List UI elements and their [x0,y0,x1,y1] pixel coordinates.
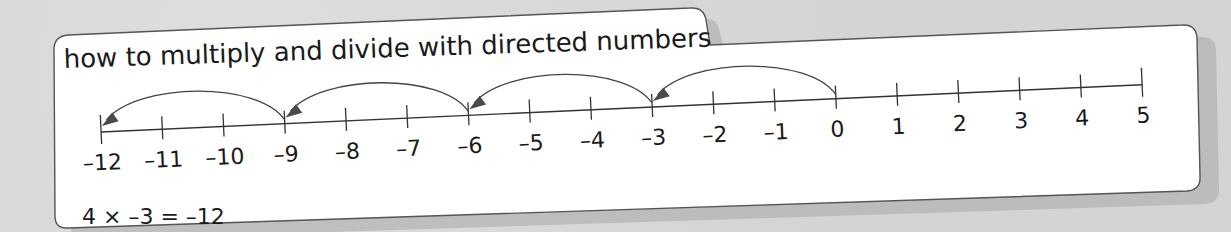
tick-label: –2 [702,122,728,148]
tick-label: –4 [579,127,605,153]
tick-label: –8 [334,138,360,164]
tick-label: –11 [144,146,184,173]
tick-label: –9 [273,141,299,167]
tick-label: 3 [1013,108,1028,134]
equation-text: 4 × –3 = –12 [82,204,225,229]
tick-label: 2 [952,111,967,137]
tick-label: –1 [763,119,789,145]
tick-label: –6 [457,133,483,159]
number-line-card-figure: how to multiply and divide with directed… [0,0,1231,232]
tick-label: –7 [396,136,422,162]
tick-label: –12 [82,149,122,176]
tick-label: –10 [205,144,245,171]
tick-label: 0 [830,116,845,142]
tick-label: –5 [518,130,544,156]
tick-label: 4 [1075,105,1090,131]
tick-label: –3 [641,124,667,150]
tick-label: 5 [1136,102,1151,128]
tick-label: 1 [891,114,906,140]
